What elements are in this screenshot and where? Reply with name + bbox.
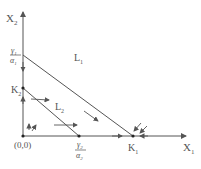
- k1-dot: [131, 134, 134, 137]
- k2-label: K2: [11, 84, 21, 97]
- gamma2-over-alpha2-label: γ2 α2: [75, 140, 86, 161]
- origin-dot: [21, 134, 24, 137]
- y-axis-label: X2: [6, 12, 18, 27]
- gamma1-over-alpha1-label: γ1 α1: [10, 46, 21, 66]
- svg-text:α2: α2: [76, 151, 83, 161]
- flow-arrows: [23, 62, 148, 136]
- l2-intercept-dot: [77, 134, 80, 137]
- L2-label: L2: [55, 101, 64, 114]
- k1-label: K1: [128, 142, 138, 155]
- x-axis-label: X1: [183, 141, 195, 156]
- origin-label: (0,0): [14, 140, 31, 150]
- svg-text:γ2: γ2: [77, 140, 83, 150]
- line-L2: [23, 88, 79, 136]
- svg-text:γ1: γ1: [11, 46, 17, 56]
- L1-label: L1: [74, 52, 83, 65]
- svg-text:α1: α1: [10, 56, 17, 66]
- line-L1: [23, 55, 133, 136]
- k2-dot: [21, 86, 24, 89]
- phase-diagram: X2 X1 (0,0) K1 K2 L1 L2 γ1 α1 γ2 α2: [0, 0, 201, 169]
